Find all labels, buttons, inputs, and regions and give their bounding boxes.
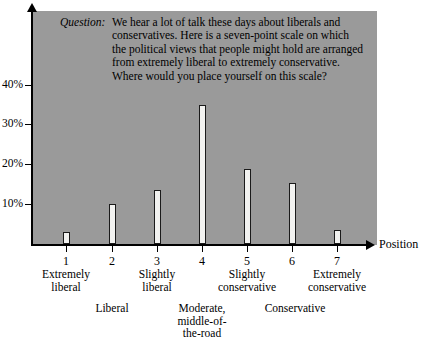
x-tick-2 xyxy=(112,246,113,252)
group-label-conservative: Conservative xyxy=(235,302,355,315)
y-tick-label-20: 20% xyxy=(0,157,23,169)
y-tick-20 xyxy=(25,164,32,165)
y-tick-label-40: 40% xyxy=(0,78,23,90)
bar-7 xyxy=(334,230,341,244)
x-tick-6 xyxy=(292,246,293,252)
category-label-7-line1: Extremely xyxy=(282,268,392,281)
bar-6 xyxy=(289,183,296,244)
y-tick-40 xyxy=(25,85,32,86)
group-label-moderate-line2: middle-of- xyxy=(142,315,262,328)
x-axis-line xyxy=(31,244,368,246)
category-label-7-line2: conservative xyxy=(282,281,392,294)
bar-2 xyxy=(109,204,116,244)
x-tick-label-1: 1 xyxy=(51,254,81,269)
group-label-moderate-line3: the-road xyxy=(142,327,262,340)
x-tick-4 xyxy=(202,246,203,252)
bar-3 xyxy=(154,190,161,244)
bar-5 xyxy=(244,169,251,244)
x-tick-label-3: 3 xyxy=(142,254,172,269)
x-tick-label-7: 7 xyxy=(322,254,352,269)
y-tick-label-30: 30% xyxy=(0,117,23,129)
x-tick-7 xyxy=(337,246,338,252)
y-tick-10 xyxy=(25,204,32,205)
question-annotation: Question: We hear a lot of talk these da… xyxy=(60,16,365,83)
category-label-7: Extremely conservative xyxy=(282,268,392,293)
x-tick-label-6: 6 xyxy=(277,254,307,269)
bar-1 xyxy=(63,232,70,244)
y-tick-30 xyxy=(25,124,32,125)
x-tick-label-5: 5 xyxy=(232,254,262,269)
x-tick-1 xyxy=(66,246,67,252)
x-tick-label-4: 4 xyxy=(187,254,217,269)
y-axis-line xyxy=(31,11,33,245)
y-axis-arrow-icon xyxy=(27,3,37,12)
x-axis-arrow-icon xyxy=(366,240,375,250)
x-tick-5 xyxy=(247,246,248,252)
chart-figure: Position 40% 30% 20% 10% 1 2 3 4 5 6 7 E… xyxy=(0,0,426,345)
x-axis-title: Position xyxy=(379,237,418,252)
bar-4 xyxy=(199,105,206,244)
x-tick-3 xyxy=(157,246,158,252)
x-tick-label-2: 2 xyxy=(97,254,127,269)
question-text: We hear a lot of talk these days about l… xyxy=(112,16,365,83)
y-tick-label-10: 10% xyxy=(0,197,23,209)
question-label: Question: xyxy=(60,16,105,29)
